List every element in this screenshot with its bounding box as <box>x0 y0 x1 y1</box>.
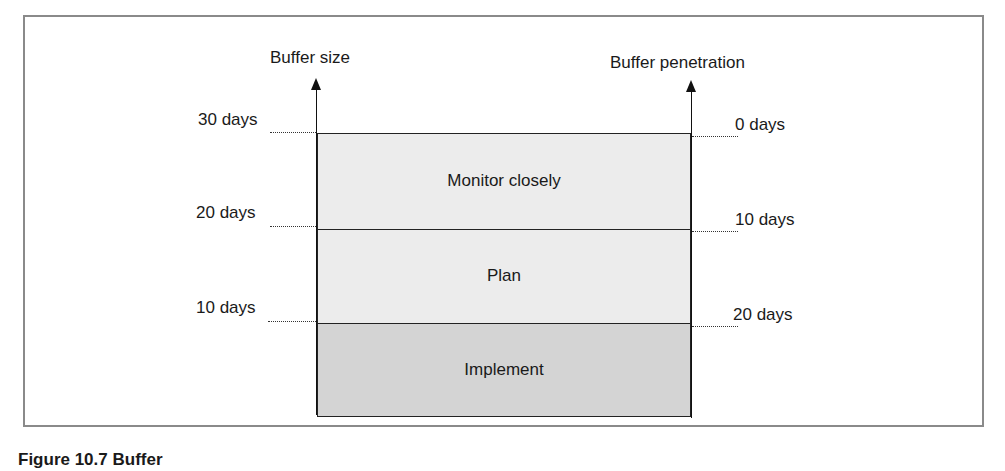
buffer-penetration-arrow-icon <box>686 80 696 92</box>
zone-top-line <box>317 133 691 134</box>
zone-monitor-closely: Monitor closely <box>317 133 691 229</box>
zone-plan: Plan <box>317 229 691 323</box>
zone-divider-upper <box>317 229 691 230</box>
buffer-size-axis-title: Buffer size <box>270 48 350 68</box>
left-tick-10-days: 10 days <box>196 298 256 318</box>
left-tick-30-days: 30 days <box>198 110 258 130</box>
right-tick-0-leader <box>692 136 738 137</box>
right-tick-20-days: 20 days <box>733 305 793 325</box>
right-tick-10-leader <box>692 231 738 232</box>
zone-implement-label: Implement <box>464 360 543 380</box>
right-tick-10-days: 10 days <box>735 210 795 230</box>
left-tick-10-leader <box>268 321 316 322</box>
left-tick-30-leader <box>270 132 316 133</box>
buffer-penetration-axis-title: Buffer penetration <box>610 53 745 73</box>
figure-caption: Figure 10.7 Buffer <box>18 450 163 470</box>
zone-plan-label: Plan <box>487 266 521 286</box>
left-tick-20-days: 20 days <box>196 203 256 223</box>
right-tick-0-days: 0 days <box>735 115 785 135</box>
zone-monitor-closely-label: Monitor closely <box>447 171 560 191</box>
left-tick-20-leader <box>270 226 316 227</box>
zone-divider-lower <box>317 323 691 324</box>
right-tick-20-leader <box>692 326 738 327</box>
buffer-size-arrow-icon <box>311 78 321 90</box>
zone-implement: Implement <box>317 323 691 417</box>
buffer-penetration-axis <box>691 92 692 418</box>
